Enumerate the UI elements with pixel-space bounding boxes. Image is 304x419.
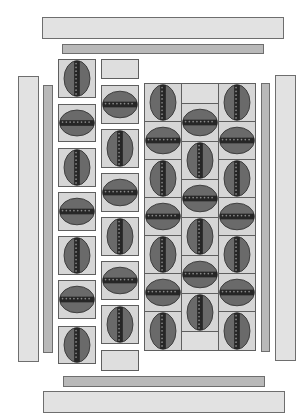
bean-icon: [219, 236, 255, 273]
bean-tile-vertical: [218, 235, 256, 274]
bean-tile-horizontal: [218, 121, 256, 160]
bean-icon: [145, 84, 181, 121]
bottom-outer-bar: [43, 391, 285, 413]
bean-tile-vertical: [218, 311, 256, 351]
blank-tile: [101, 350, 139, 371]
bean-tile-horizontal: [218, 273, 256, 312]
bean-icon: [59, 105, 95, 141]
left-inner-bar: [43, 85, 53, 353]
bean-tile-vertical: [218, 159, 256, 198]
bean-icon: [145, 160, 181, 197]
bean-tile-vertical: [181, 217, 219, 256]
bean-icon: [102, 262, 138, 299]
blank-tile: [181, 83, 219, 104]
bean-icon: [102, 130, 138, 167]
right-inner-bar: [261, 83, 270, 352]
bean-icon: [219, 198, 255, 235]
bean-tile-horizontal: [58, 280, 96, 319]
bean-tile-horizontal: [144, 273, 182, 312]
bean-tile-vertical: [144, 83, 182, 122]
bean-tile-vertical: [101, 305, 139, 344]
bean-tile-vertical: [218, 83, 256, 122]
top-inner-bar: [62, 44, 264, 54]
bean-icon: [145, 122, 181, 159]
bean-tile-horizontal: [101, 261, 139, 300]
bean-icon: [59, 60, 95, 97]
bean-icon: [59, 237, 95, 274]
bean-icon: [219, 122, 255, 159]
bean-icon: [102, 218, 138, 255]
bean-tile-horizontal: [181, 179, 219, 218]
bean-tile-horizontal: [144, 197, 182, 236]
bean-icon: [219, 160, 255, 197]
bean-icon: [219, 312, 255, 350]
bean-tile-vertical: [101, 129, 139, 168]
bean-tile-vertical: [144, 311, 182, 351]
bean-icon: [145, 312, 181, 350]
bean-tile-vertical: [144, 159, 182, 198]
bean-icon: [182, 142, 218, 179]
bean-tile-vertical: [101, 217, 139, 256]
blank-tile: [101, 59, 139, 79]
bean-icon: [59, 327, 95, 363]
bean-tile-horizontal: [58, 104, 96, 142]
bean-icon: [182, 256, 218, 293]
bean-tile-vertical: [58, 236, 96, 275]
bean-tile-vertical: [144, 235, 182, 274]
bean-tile-vertical: [181, 293, 219, 332]
bean-tile-horizontal: [101, 173, 139, 212]
bean-icon: [59, 281, 95, 318]
bean-icon: [145, 236, 181, 273]
bean-tile-horizontal: [181, 103, 219, 142]
bean-tile-horizontal: [181, 255, 219, 294]
bean-tile-horizontal: [218, 197, 256, 236]
bean-icon: [102, 174, 138, 211]
bean-icon: [102, 306, 138, 343]
bean-tile-vertical: [181, 141, 219, 180]
bean-tile-vertical: [58, 59, 96, 98]
bottom-inner-bar: [63, 376, 265, 387]
blank-tile: [181, 331, 219, 351]
bean-tile-vertical: [58, 326, 96, 364]
bean-icon: [145, 198, 181, 235]
bean-tile-horizontal: [144, 121, 182, 160]
bean-icon: [182, 294, 218, 331]
bean-icon: [182, 218, 218, 255]
right-outer-bar: [275, 75, 296, 361]
bean-icon: [219, 274, 255, 311]
bean-icon: [59, 193, 95, 230]
top-outer-bar: [42, 17, 284, 39]
bean-tile-horizontal: [101, 85, 139, 124]
bean-icon: [182, 180, 218, 217]
bean-icon: [102, 86, 138, 123]
bean-icon: [59, 149, 95, 186]
bean-icon: [219, 84, 255, 121]
bean-tile-horizontal: [58, 192, 96, 231]
left-outer-bar: [18, 76, 39, 362]
bean-icon: [145, 274, 181, 311]
bean-tile-vertical: [58, 148, 96, 187]
bean-icon: [182, 104, 218, 141]
